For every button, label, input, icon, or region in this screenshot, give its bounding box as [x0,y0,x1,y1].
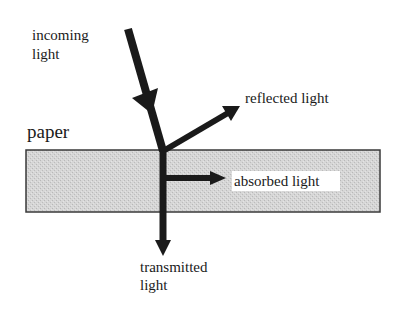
incoming-label-line2: light [32,46,60,62]
transmitted-arrowhead-icon [155,240,171,256]
transmitted-label-line2: light [140,277,168,293]
incoming-light-arrow [128,29,163,151]
reflected-light-arrow [165,113,228,150]
absorbed-label: absorbed light [234,173,320,189]
paper-label: paper [27,121,70,142]
reflected-label: reflected light [245,90,330,106]
incoming-label-line1: incoming [32,27,89,43]
transmitted-label-line1: transmitted [140,259,208,275]
light-paper-diagram: incoming light paper reflected light abs… [0,0,403,315]
